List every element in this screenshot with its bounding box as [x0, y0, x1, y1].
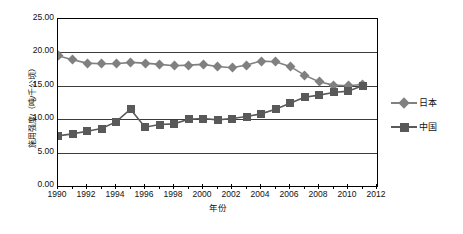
data-point-marker: [112, 118, 120, 126]
series-lines: [58, 19, 377, 186]
x-tick-mark: [86, 184, 87, 189]
x-tick-mark-minor: [101, 186, 102, 189]
x-tick-mark: [347, 184, 348, 189]
legend-label: 中国: [417, 122, 437, 133]
data-point-marker: [199, 115, 207, 123]
data-point-marker: [141, 123, 149, 131]
data-point-marker: [344, 87, 352, 95]
data-point-marker: [156, 121, 164, 129]
chart-figure: 施用强度/（吨/千公顷） 0.005.0010.0015.0020.0025.0…: [0, 0, 463, 234]
data-point-marker: [330, 88, 338, 96]
data-point-marker: [243, 113, 251, 121]
y-tick-label: 0.00: [20, 180, 54, 189]
y-tick-label: 5.00: [20, 147, 54, 156]
x-tick-label: 2012: [356, 189, 396, 200]
y-tick-label: 20.00: [20, 46, 54, 55]
square-marker-icon: [391, 121, 417, 133]
data-point-marker: [228, 115, 236, 123]
x-tick-mark-minor: [159, 186, 160, 189]
data-point-marker: [315, 91, 323, 99]
legend-label: 日本: [417, 98, 437, 109]
data-point-marker: [214, 116, 222, 124]
x-tick-mark-minor: [362, 186, 363, 189]
x-tick-mark-minor: [246, 186, 247, 189]
x-tick-mark: [202, 184, 203, 189]
y-tick-label: 25.00: [20, 13, 54, 22]
x-tick-mark: [260, 184, 261, 189]
x-axis-tick-labels: 1990199219941996199820002002200420062008…: [57, 189, 378, 203]
data-point-marker: [185, 115, 193, 123]
x-tick-mark: [231, 184, 232, 189]
data-point-marker: [83, 127, 91, 135]
x-tick-mark: [289, 184, 290, 189]
x-tick-mark: [173, 184, 174, 189]
data-point-marker: [170, 120, 178, 128]
data-point-marker: [127, 105, 135, 113]
data-point-marker: [301, 93, 309, 101]
x-tick-mark: [318, 184, 319, 189]
x-tick-mark-minor: [333, 186, 334, 189]
y-tick-label: 15.00: [20, 80, 54, 89]
data-point-marker: [69, 130, 77, 138]
chart-legend: 日本中国: [391, 94, 461, 142]
data-point-marker: [257, 110, 265, 118]
plot-inner: [58, 19, 377, 186]
x-axis-title: 年份: [57, 203, 378, 214]
x-tick-mark-minor: [72, 186, 73, 189]
legend-item-1[interactable]: 日本: [391, 96, 437, 110]
data-point-marker: [98, 125, 106, 133]
x-tick-mark-minor: [275, 186, 276, 189]
data-point-marker: [286, 99, 294, 107]
data-point-marker: [272, 105, 280, 113]
legend-item-2[interactable]: 中国: [391, 120, 437, 134]
y-tick-label: 10.00: [20, 113, 54, 122]
diamond-marker-icon: [391, 97, 417, 109]
x-tick-mark-minor: [130, 186, 131, 189]
x-tick-mark-minor: [304, 186, 305, 189]
data-point-marker: [359, 82, 367, 90]
plot-area: [57, 18, 378, 187]
x-tick-mark: [57, 184, 58, 189]
x-tick-mark: [115, 184, 116, 189]
x-tick-mark: [144, 184, 145, 189]
x-tick-mark: [376, 184, 377, 189]
x-tick-mark-minor: [217, 186, 218, 189]
data-point-marker: [58, 132, 62, 140]
x-tick-mark-minor: [188, 186, 189, 189]
